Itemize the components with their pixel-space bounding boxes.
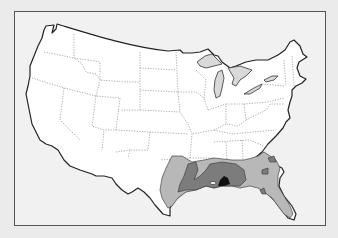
range-zone-medium xyxy=(178,162,246,192)
us-map xyxy=(0,0,338,238)
lake-pontchartrain xyxy=(210,181,216,184)
